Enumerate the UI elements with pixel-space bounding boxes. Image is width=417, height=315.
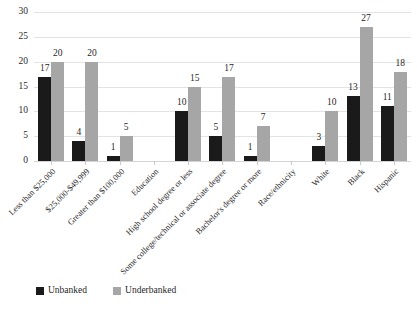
bar-unbanked: 3	[312, 146, 325, 161]
bar-value-label: 7	[261, 113, 266, 123]
bar-group	[274, 12, 308, 161]
legend-swatch-icon	[113, 287, 121, 295]
y-tick-label-5: 5	[2, 131, 28, 141]
bar-group: 310	[308, 12, 342, 161]
x-label-slot: Less than $25,000	[34, 165, 68, 270]
bar-value-label: 17	[40, 64, 50, 74]
x-axis-label: White	[311, 167, 332, 188]
bar-group: 517	[205, 12, 239, 161]
bar-value-label: 20	[87, 49, 97, 59]
bar-underbanked: 10	[325, 111, 338, 161]
bar-unbanked: 5	[209, 136, 222, 161]
bar-value-label: 20	[53, 49, 63, 59]
x-axis-label: Hispanic	[372, 167, 400, 195]
bar-unbanked: 10	[175, 111, 188, 161]
bar-value-label: 5	[124, 123, 129, 133]
y-tick-label-25: 25	[2, 32, 28, 42]
bar-value-label: 10	[177, 98, 187, 108]
legend-label: Underbanked	[125, 286, 176, 296]
bar-group: 420	[68, 12, 102, 161]
y-tick-label-15: 15	[2, 82, 28, 92]
bar-underbanked: 7	[257, 126, 270, 161]
bar-value-label: 13	[348, 83, 358, 93]
x-label-slot: Hispanic	[377, 165, 411, 270]
bar-group: 15	[103, 12, 137, 161]
bar-group	[137, 12, 171, 161]
x-label-slot: Black	[342, 165, 376, 270]
bar-value-label: 27	[361, 14, 371, 24]
bar-unbanked: 13	[347, 96, 360, 161]
bar-unbanked: 4	[72, 141, 85, 161]
bar-value-label: 4	[77, 128, 82, 138]
bar-value-label: 5	[214, 123, 219, 133]
bar-value-label: 1	[111, 143, 116, 153]
legend-item[interactable]: Unbanked	[36, 286, 87, 296]
y-tick-label-0: 0	[2, 156, 28, 166]
bar-unbanked: 11	[381, 106, 394, 161]
bar-group: 1118	[377, 12, 411, 161]
bar-underbanked: 5	[120, 136, 133, 161]
y-tick-label-20: 20	[2, 57, 28, 67]
bar-group: 1720	[34, 12, 68, 161]
bars-layer: 17204201510155171731013271118	[34, 12, 411, 161]
legend-label: Unbanked	[48, 286, 87, 296]
bar-value-label: 10	[327, 98, 337, 108]
bar-value-label: 17	[224, 64, 234, 74]
bar-underbanked: 27	[360, 27, 373, 161]
chart-legend: UnbankedUnderbanked	[36, 286, 176, 296]
bar-group: 17	[240, 12, 274, 161]
x-label-slot: Bachelor's degree or more	[240, 165, 274, 270]
bar-group: 1327	[342, 12, 376, 161]
legend-swatch-icon	[36, 287, 44, 295]
bar-group: 1015	[171, 12, 205, 161]
x-axis-label: Black	[345, 167, 366, 188]
x-label-slot: Race/ethnicity	[274, 165, 308, 270]
bar-underbanked: 17	[222, 77, 235, 161]
bar-value-label: 18	[396, 59, 406, 69]
bar-underbanked: 15	[188, 87, 201, 162]
bar-chart: 17204201510155171731013271118 0510152025…	[0, 0, 417, 315]
bar-underbanked: 18	[394, 72, 407, 161]
legend-item[interactable]: Underbanked	[113, 286, 176, 296]
y-tick-label-10: 10	[2, 107, 28, 117]
bar-value-label: 3	[316, 133, 321, 143]
x-label-slot: White	[308, 165, 342, 270]
bar-value-label: 11	[383, 93, 392, 103]
x-axis-labels: Less than $25,000$25,000-$49,999Greater …	[34, 165, 411, 270]
bar-value-label: 1	[248, 143, 253, 153]
plot-area: 17204201510155171731013271118	[34, 12, 411, 161]
bar-underbanked: 20	[85, 62, 98, 161]
y-tick-label-30: 30	[2, 7, 28, 17]
bar-value-label: 15	[190, 74, 200, 84]
bar-unbanked: 17	[38, 77, 51, 161]
bar-underbanked: 20	[51, 62, 64, 161]
